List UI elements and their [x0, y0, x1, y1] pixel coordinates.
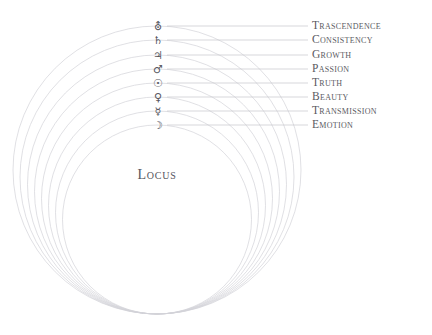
sphere-circle-8 — [63, 125, 252, 314]
ring-label-consistency: Consistency — [312, 33, 373, 45]
venus-symbol: ♀ — [154, 91, 162, 104]
ring-label-emotion: Emotion — [312, 118, 353, 130]
ring-label-trascendence: Trascendence — [312, 19, 381, 31]
ring-label-transmission: Transmission — [312, 104, 377, 116]
ring-label-beauty: Beauty — [312, 90, 349, 102]
mercury-symbol: ☿ — [155, 105, 162, 118]
ring-label-passion: Passion — [312, 62, 349, 74]
sphere-circle-7 — [56, 111, 259, 314]
saturn-symbol: ♄ — [153, 34, 163, 47]
sun-symbol: ☉ — [153, 77, 163, 90]
planet-symbols-group: ⛢♄♃♂☉♀☿☽ — [153, 20, 163, 132]
diagram-canvas: ⛢♄♃♂☉♀☿☽ TrascendenceConsistencyGrowthPa… — [0, 0, 432, 335]
jupiter-symbol: ♃ — [153, 49, 163, 62]
uranus-symbol: ⛢ — [154, 20, 162, 33]
ring-label-growth: Growth — [312, 48, 351, 60]
ring-labels-group: TrascendenceConsistencyGrowthPassionTrut… — [312, 19, 381, 130]
mars-symbol: ♂ — [153, 63, 163, 76]
leader-lines-group — [167, 26, 308, 125]
center-locus-label: Locus — [137, 167, 176, 182]
moon-symbol: ☽ — [153, 119, 163, 132]
ring-label-truth: Truth — [312, 76, 342, 88]
concentric-spheres-diagram: ⛢♄♃♂☉♀☿☽ TrascendenceConsistencyGrowthPa… — [0, 0, 432, 335]
